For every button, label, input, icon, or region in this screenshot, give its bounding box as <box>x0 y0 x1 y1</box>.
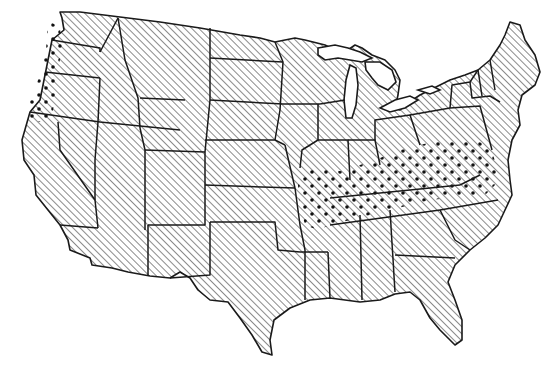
us-states-map <box>0 0 545 367</box>
